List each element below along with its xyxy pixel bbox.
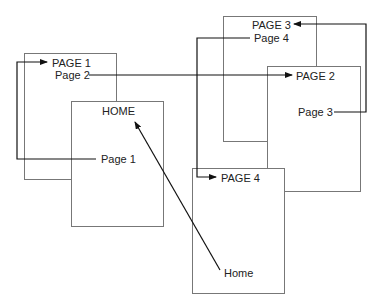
page-4-link-home: Home <box>224 267 253 279</box>
home-link-page-1: Page 1 <box>101 153 136 165</box>
page-1-link-page-2: Page 2 <box>55 69 90 81</box>
page-1-title: PAGE 1 <box>52 57 91 69</box>
page-3-title: PAGE 3 <box>252 19 291 31</box>
page-2-link-page-3: Page 3 <box>298 106 333 118</box>
page-2-title: PAGE 2 <box>296 70 335 82</box>
home-title: HOME <box>102 105 135 117</box>
page-3-link-page-4: Page 4 <box>254 32 289 44</box>
page-4-title: PAGE 4 <box>221 172 260 184</box>
